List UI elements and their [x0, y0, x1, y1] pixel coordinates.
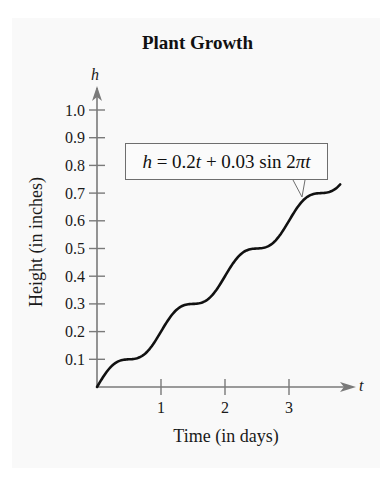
y-tick-label: 0.8 [65, 157, 85, 174]
y-tick-label: 0.4 [65, 268, 85, 285]
y-tick-label: 0.1 [65, 351, 85, 368]
y-tick-label: 0.9 [65, 129, 85, 146]
plot-area: 0.10.20.30.40.50.60.70.80.91.0 h 123 t [0, 0, 385, 478]
y-tick-label: 1.0 [65, 102, 85, 119]
y-tick-label: 0.2 [65, 323, 85, 340]
y-tick-label: 0.3 [65, 295, 85, 312]
x-tick-label: 2 [221, 399, 229, 416]
equation-callout: h = 0.2t + 0.03 sin 2πt [125, 143, 328, 180]
equation-coef: 0.2 [172, 151, 196, 172]
y-ticks: 0.10.20.30.40.50.60.70.80.91.0 [65, 102, 105, 368]
x-ticks: 123 [157, 379, 293, 416]
equals-sign: = [157, 151, 172, 172]
y-axis-variable: h [91, 66, 99, 83]
y-axis: 0.10.20.30.40.50.60.70.80.91.0 h [65, 66, 105, 388]
y-tick-label: 0.5 [65, 240, 85, 257]
x-tick-label: 1 [157, 399, 165, 416]
equation-sin-term: + 0.03 sin 2 [201, 151, 296, 172]
x-tick-label: 3 [285, 399, 293, 416]
y-tick-label: 0.7 [65, 185, 85, 202]
growth-curve [97, 184, 340, 387]
equation-pi: π [296, 151, 306, 172]
callout-pointer [293, 180, 305, 197]
y-tick-label: 0.6 [65, 212, 85, 229]
equation-var-t2: t [305, 151, 310, 172]
equation-lhs: h [142, 151, 152, 172]
x-axis-variable: t [359, 377, 364, 394]
y-axis-label: Height (in inches) [26, 177, 47, 307]
x-axis: 123 t [97, 377, 364, 416]
x-axis-label: Time (in days) [98, 426, 354, 447]
